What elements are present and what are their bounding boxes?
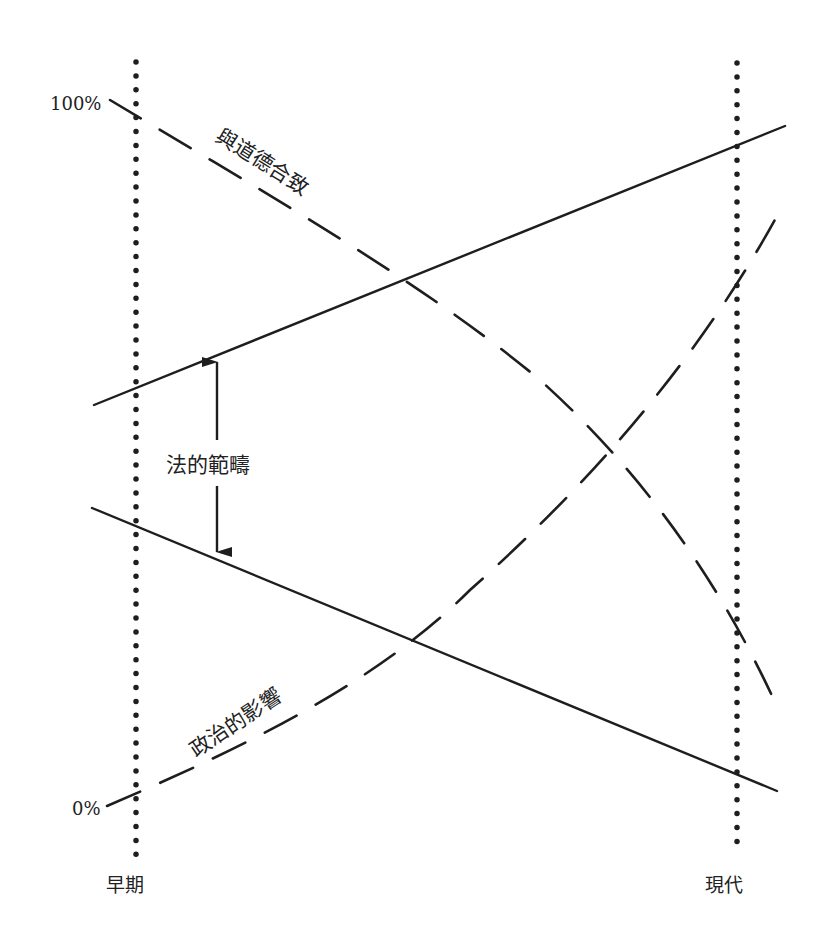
x-axis-modern-label: 現代 <box>705 874 743 896</box>
politics-curve-label: 政治的影響 <box>185 684 285 763</box>
law-morality-politics-diagram: 100% 0% 早期 現代 與道德合致 政治的影響 法的範疇 <box>0 0 838 947</box>
x-axis-early-label: 早期 <box>106 874 144 896</box>
y-axis-bottom-label: 0% <box>72 798 101 819</box>
political-influence-dashed-curve <box>107 203 784 806</box>
law-upper-boundary-line <box>94 126 785 405</box>
morality-conformity-dashed-curve <box>110 100 779 711</box>
y-axis-top-label: 100% <box>50 93 101 114</box>
morality-curve-label: 與道德合致 <box>211 124 313 200</box>
law-scope-label: 法的範疇 <box>166 453 250 477</box>
